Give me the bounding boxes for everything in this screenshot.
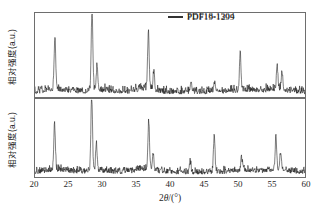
chart-panel-bottom <box>34 98 306 178</box>
x-axis-label-suffix: /(°) <box>168 193 181 203</box>
x-tick-50: 50 <box>234 179 243 189</box>
legend-label-bottom: PDF19-1299 <box>187 12 235 22</box>
y-axis-label-bottom: 相对强度(a.u.) <box>5 97 17 183</box>
xrd-figure: 相对强度(a.u.) PDF18-1304 相对强度(a.u.) PDF19-1… <box>0 0 324 221</box>
x-tick-30: 30 <box>98 179 107 189</box>
xrd-trace-bottom <box>35 99 305 177</box>
x-tick-35: 35 <box>132 179 141 189</box>
y-axis-label-top: 相对强度(a.u.) <box>5 14 17 100</box>
legend-bottom: PDF19-1299 <box>168 12 235 22</box>
x-axis-label: 2θ/(°) <box>34 193 306 203</box>
x-axis-tick-labels: 202530354045505560 <box>34 179 306 192</box>
x-tick-45: 45 <box>200 179 209 189</box>
chart-panel-top <box>34 12 306 98</box>
x-tick-40: 40 <box>166 179 175 189</box>
xrd-trace-top <box>35 13 305 97</box>
x-tick-25: 25 <box>64 179 73 189</box>
legend-line-icon-bottom <box>168 17 183 18</box>
x-tick-60: 60 <box>302 179 311 189</box>
x-tick-20: 20 <box>30 179 39 189</box>
x-tick-55: 55 <box>268 179 277 189</box>
